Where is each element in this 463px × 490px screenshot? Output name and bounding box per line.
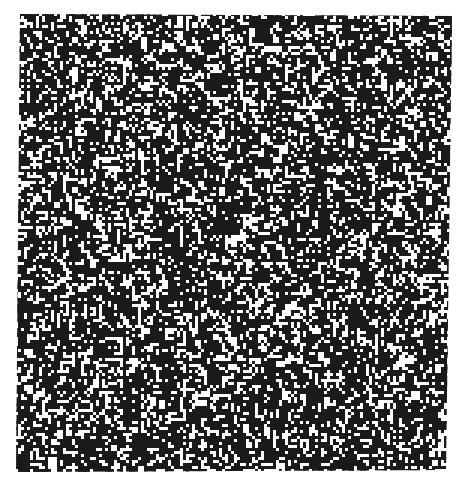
noise-texture: [0, 0, 463, 490]
